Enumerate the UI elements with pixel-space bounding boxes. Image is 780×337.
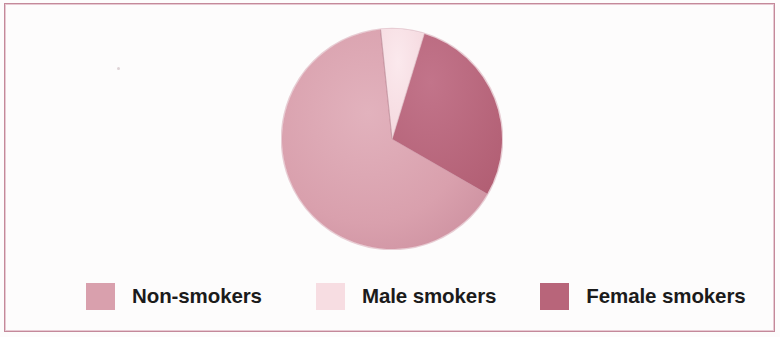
legend-swatch-female-smokers: [540, 283, 569, 310]
legend-item-non-smokers[interactable]: Non-smokers: [86, 279, 262, 313]
legend-label-non-smokers: Non-smokers: [132, 284, 262, 308]
scan-artifact-speck: [117, 67, 120, 70]
chart-legend: Non-smokers Male smokers Female smokers: [86, 279, 706, 313]
legend-item-female-smokers[interactable]: Female smokers: [540, 279, 745, 313]
figure-container: Non-smokers Male smokers Female smokers: [0, 0, 780, 337]
pie-chart-svg: [281, 27, 503, 250]
pie-chart: [281, 27, 503, 250]
legend-item-male-smokers[interactable]: Male smokers: [316, 279, 496, 313]
legend-swatch-non-smokers: [86, 283, 115, 310]
legend-label-male-smokers: Male smokers: [362, 284, 496, 308]
legend-swatch-male-smokers: [316, 283, 345, 310]
legend-label-female-smokers: Female smokers: [586, 284, 745, 308]
